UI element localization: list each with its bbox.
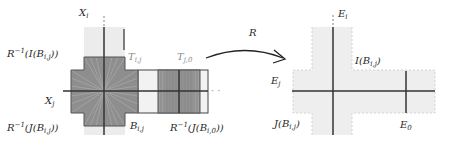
label-text: R: [7, 48, 15, 59]
label-sub: j: [52, 100, 54, 108]
label-t-ij: Ti,j: [128, 52, 141, 64]
label-text: J(B: [274, 118, 289, 129]
label-e-j: Ej: [271, 76, 280, 88]
left-figure: [63, 16, 208, 135]
label-sub: i,0: [207, 127, 216, 135]
label-text: T: [128, 51, 135, 62]
label-t-j0: Tj,0: [177, 52, 193, 64]
label-i-b-ij: I(Bi,j): [355, 56, 381, 68]
label-sub: i,j: [289, 123, 296, 131]
label-text: )): [51, 122, 59, 133]
label-r-inv-j-b-ij: R−1(J(Bi,j)): [7, 122, 58, 135]
label-sub: 0: [407, 124, 411, 132]
label-sup: −1: [178, 121, 188, 129]
label-e-i: Ei: [338, 9, 348, 21]
label-text: ): [377, 55, 381, 66]
label-sub: i,j: [137, 125, 144, 133]
label-x-j: Xj: [45, 96, 54, 108]
arrow-r: [206, 50, 285, 63]
label-r-inv-i-b-ij: R−1(I(Bi,j)): [7, 48, 58, 61]
label-text: (I(B: [25, 48, 44, 59]
label-sub: i,j: [44, 53, 51, 61]
label-sup: −1: [15, 121, 25, 129]
label-text: R: [170, 122, 178, 133]
label-sub: i: [86, 12, 88, 20]
label-b-ij: Bi,j: [130, 121, 144, 133]
label-sub: j,0: [184, 56, 193, 64]
label-sub: i: [345, 13, 347, 21]
label-sub: i,j: [370, 60, 377, 68]
label-e-0: E0: [400, 120, 412, 132]
label-text: )): [51, 48, 59, 59]
label-j-b-ij: J(Bi,j): [274, 119, 300, 131]
label-sup: −1: [15, 47, 25, 55]
right-figure: [292, 15, 435, 135]
label-sub: i,j: [135, 56, 142, 64]
label-r-inv-j-b-i0: R−1(J(Bi,0)): [170, 122, 224, 135]
label-x-i: Xi: [79, 8, 88, 20]
label-text: T: [177, 51, 184, 62]
diagram-canvas: Xi R−1(I(Bi,j)) Ti,j Tj,0 Xj R−1(J(Bi,j)…: [0, 0, 449, 142]
label-text: ): [296, 118, 300, 129]
label-text: (J(B: [188, 122, 207, 133]
continuation-dots: · ·: [211, 86, 221, 96]
label-text: (J(B: [25, 122, 44, 133]
label-text: I(B: [355, 55, 370, 66]
label-sub: i,j: [44, 127, 51, 135]
label-text: )): [216, 122, 224, 133]
label-sub: j: [278, 80, 280, 88]
label-text: R: [7, 122, 15, 133]
label-r: R: [249, 28, 257, 38]
